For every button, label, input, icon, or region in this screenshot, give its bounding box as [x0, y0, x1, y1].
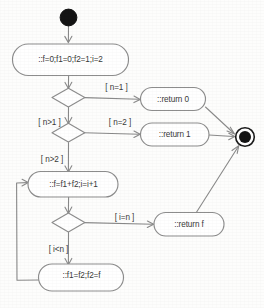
edge-loop-action-to-decision-i: [65, 197, 72, 214]
edge-decision-n1-to-decision-n2: [65, 107, 72, 123]
edge-decision-n2-to-return-one: [84, 131, 140, 138]
action-node-return-f[interactable]: ::return f: [154, 213, 224, 237]
guard-label-i-lt-n: [ i<n ]: [49, 245, 69, 254]
action-node-shift[interactable]: ::f1=f2;f2=f: [39, 264, 124, 291]
guard-label-i-eq-n: [ i=n ]: [115, 213, 135, 222]
final-node: [236, 128, 255, 147]
activity-diagram: ::f=0;f1=0;f2=1;i=2 ::return 0 ::return …: [0, 0, 264, 308]
guard-label-n-gt-1: [ n>1 ]: [38, 118, 60, 127]
action-node-shift-label: ::f1=f2;f2=f: [63, 271, 102, 280]
action-node-init-label: ::f=0;f1=0;f2=1;i=2: [38, 55, 103, 64]
decision-node-i[interactable]: [52, 213, 85, 232]
action-node-loop-label: ::f=f1+f2;i=i+1: [49, 180, 98, 189]
guard-label-n-gt-2: [ n>2 ]: [41, 155, 63, 164]
edge-decision-n1-to-return-zero: [85, 96, 141, 103]
action-node-init[interactable]: ::f=0;f1=0;f2=1;i=2: [13, 44, 129, 76]
action-node-loop[interactable]: ::f=f1+f2;i=i+1: [28, 172, 118, 198]
action-node-return-one-label: ::return 1: [159, 130, 191, 139]
action-node-return-zero[interactable]: ::return 0: [141, 88, 206, 111]
guard-label-n-eq-2: [ n=2 ]: [109, 118, 131, 127]
action-node-return-zero-label: ::return 0: [157, 95, 189, 104]
initial-node: [60, 9, 77, 26]
edge-return-f-to-final: [196, 146, 239, 213]
action-node-return-one[interactable]: ::return 1: [141, 123, 210, 146]
edge-init-action-to-decision-n1: [65, 76, 72, 89]
edge-decision-i-to-return-f: [84, 221, 153, 228]
guard-label-n-eq-1: [ n=1 ]: [105, 83, 127, 92]
edge-return-zero-to-final: [206, 107, 235, 134]
edge-decision-n2-to-loop-action: [65, 143, 72, 173]
decision-node-n1[interactable]: [52, 88, 85, 107]
edge-initial-to-init-action: [65, 26, 72, 43]
action-node-return-f-label: ::return f: [174, 220, 204, 229]
diagram-canvas: ::f=0;f1=0;f2=1;i=2 ::return 0 ::return …: [0, 0, 264, 308]
edge-return-one-to-final: [209, 133, 235, 140]
